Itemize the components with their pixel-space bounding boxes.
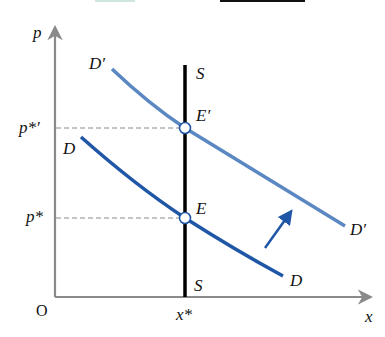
shift-arrow-icon <box>265 213 290 248</box>
x-star-label: x* <box>175 305 193 324</box>
y-axis-label: p <box>32 23 42 42</box>
equilibrium-e-prime-label: E′ <box>195 106 210 125</box>
supply-top-label: S <box>196 64 205 83</box>
demand-end-label: D <box>289 271 303 290</box>
equilibrium-point-e <box>180 213 191 224</box>
demand-shifted-start-label: D′ <box>88 54 105 73</box>
equilibrium-point-e-prime <box>180 123 191 134</box>
x-axis-label: x <box>364 307 373 326</box>
demand-curve <box>81 137 283 276</box>
p-star-label: p* <box>25 207 44 226</box>
demand-curve-shifted <box>112 69 345 226</box>
demand-shifted-end-label: D′ <box>349 220 366 239</box>
demand-start-label: D <box>62 139 76 158</box>
origin-label: O <box>36 302 48 319</box>
supply-bottom-label: S <box>194 276 203 295</box>
p-star-prime-label: p*′ <box>18 118 40 137</box>
supply-demand-diagram: p x O p*′ p* x* D′ D′ D D S S E′ E <box>0 0 385 337</box>
equilibrium-e-label: E <box>195 199 207 218</box>
